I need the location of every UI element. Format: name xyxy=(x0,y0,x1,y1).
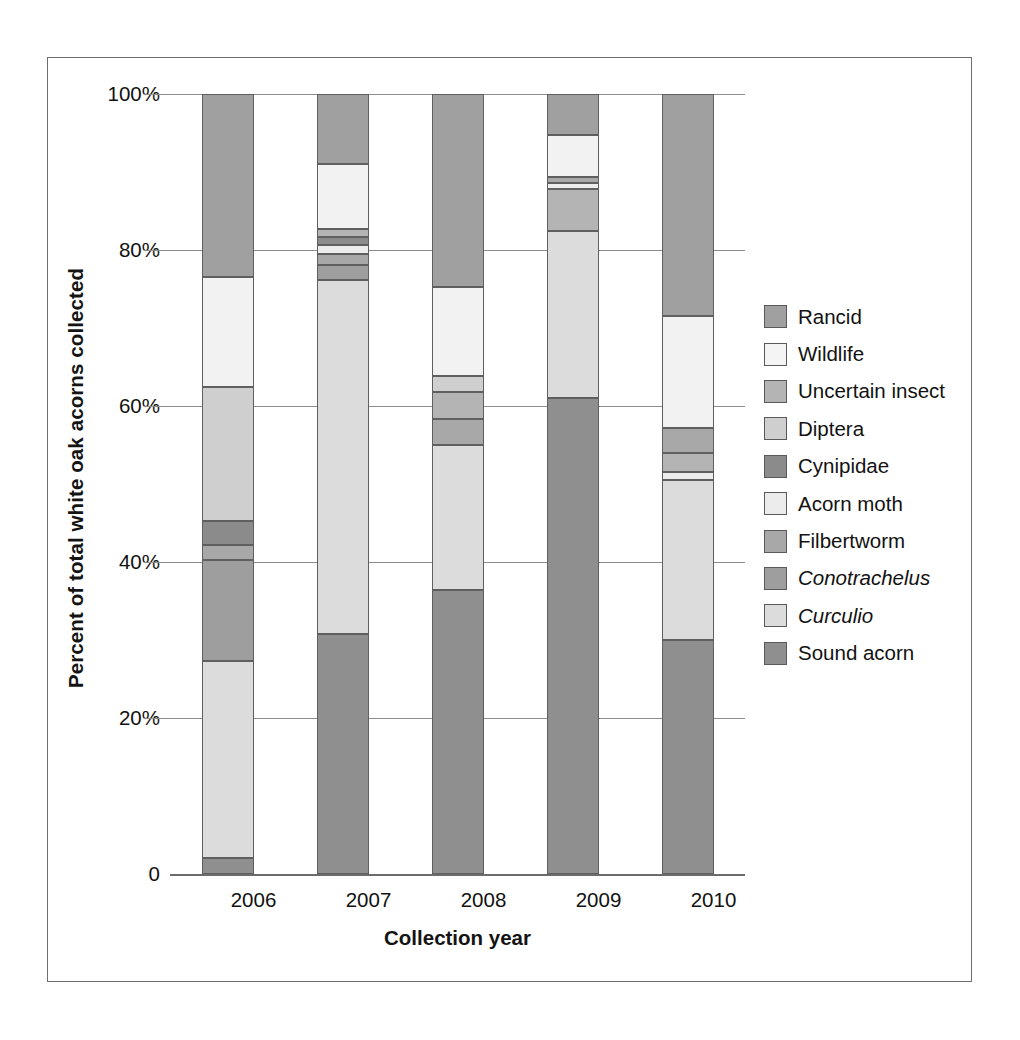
bar-segment-2009-filbertworm[interactable] xyxy=(547,177,599,183)
legend-item-acorn-moth[interactable]: Acorn moth xyxy=(764,485,964,522)
x-tick-label-2008: 2008 xyxy=(424,888,544,912)
legend-swatch-icon-rancid xyxy=(764,305,787,328)
bar-2008[interactable] xyxy=(432,94,484,874)
bar-segment-2009-sound-acorn[interactable] xyxy=(547,398,599,874)
legend-item-filbertworm[interactable]: Filbertworm xyxy=(764,522,964,559)
bar-segment-2006-sound-acorn[interactable] xyxy=(202,858,254,874)
y-tick-label-0: 0 xyxy=(149,862,160,886)
bar-segment-2007-curculio[interactable] xyxy=(317,280,369,633)
x-tick-label-2007: 2007 xyxy=(309,888,429,912)
legend-item-sound-acorn[interactable]: Sound acorn xyxy=(764,635,964,672)
figure-frame: Percent of total white oak acorns collec… xyxy=(47,57,972,982)
legend-item-conotrachelus[interactable]: Conotrachelus xyxy=(764,560,964,597)
legend-swatch-icon-conotrachelus xyxy=(764,567,787,590)
bar-2007[interactable] xyxy=(317,94,369,874)
bar-segment-2007-conotrachelus[interactable] xyxy=(317,265,369,281)
bar-segment-2007-filbertworm[interactable] xyxy=(317,254,369,265)
x-axis-title: Collection year xyxy=(170,926,745,950)
x-tick-label-2006: 2006 xyxy=(194,888,314,912)
legend-item-rancid[interactable]: Rancid xyxy=(764,298,964,335)
bar-segment-2006-diptera[interactable] xyxy=(202,387,254,522)
bar-segment-2007-wildlife[interactable] xyxy=(317,164,369,229)
bar-segment-2010-wildlife[interactable] xyxy=(662,316,714,428)
legend: RancidWildlifeUncertain insectDipteraCyn… xyxy=(764,298,964,672)
bar-segment-2006-conotrachelus[interactable] xyxy=(202,560,254,661)
bar-segment-2010-sound-acorn[interactable] xyxy=(662,640,714,874)
bar-segment-2006-rancid[interactable] xyxy=(202,94,254,277)
bar-segment-2010-uncertain-insect[interactable] xyxy=(662,453,714,473)
bar-segment-2008-wildlife[interactable] xyxy=(432,287,484,377)
bar-segment-2008-sound-acorn[interactable] xyxy=(432,590,484,874)
bar-segment-2008-diptera[interactable] xyxy=(432,376,484,392)
legend-swatch-icon-sound-acorn xyxy=(764,642,787,665)
bar-segment-2010-rancid[interactable] xyxy=(662,94,714,316)
legend-label: Rancid xyxy=(798,305,862,329)
bar-segment-2006-curculio[interactable] xyxy=(202,661,254,858)
legend-swatch-icon-curculio xyxy=(764,604,787,627)
bar-segment-2006-cynipidae[interactable] xyxy=(202,521,254,544)
legend-swatch-icon-filbertworm xyxy=(764,530,787,553)
bar-segment-2010-filbertworm[interactable] xyxy=(662,428,714,453)
bar-segment-2008-uncertain-insect[interactable] xyxy=(432,392,484,419)
bar-2006[interactable] xyxy=(202,94,254,874)
bar-segment-2007-rancid[interactable] xyxy=(317,94,369,164)
legend-label: Curculio xyxy=(798,604,873,628)
bar-segment-2007-sound-acorn[interactable] xyxy=(317,634,369,874)
y-tick-mark-40 xyxy=(144,562,170,563)
bar-segment-2007-acorn-moth[interactable] xyxy=(317,245,369,254)
x-tick-label-2010: 2010 xyxy=(654,888,774,912)
bar-segment-2008-filbertworm[interactable] xyxy=(432,419,484,445)
legend-swatch-icon-diptera xyxy=(764,417,787,440)
bar-segment-2008-rancid[interactable] xyxy=(432,94,484,287)
legend-label: Acorn moth xyxy=(798,492,903,516)
bar-segment-2007-cynipidae[interactable] xyxy=(317,237,369,245)
bar-segment-2006-filbertworm[interactable] xyxy=(202,545,254,560)
x-tick-label-2009: 2009 xyxy=(539,888,659,912)
bar-segment-2008-curculio[interactable] xyxy=(432,445,484,590)
bar-segment-2010-acorn-moth[interactable] xyxy=(662,472,714,480)
legend-label: Sound acorn xyxy=(798,641,914,665)
legend-label: Diptera xyxy=(798,417,864,441)
legend-label: Conotrachelus xyxy=(798,566,930,590)
y-axis-title: Percent of total white oak acorns collec… xyxy=(64,158,88,798)
bar-segment-2010-curculio[interactable] xyxy=(662,480,714,640)
legend-swatch-icon-cynipidae xyxy=(764,455,787,478)
x-axis-line xyxy=(170,874,745,876)
legend-swatch-icon-acorn-moth xyxy=(764,492,787,515)
y-tick-mark-60 xyxy=(144,406,170,407)
legend-label: Uncertain insect xyxy=(798,379,945,403)
bar-segment-2006-wildlife[interactable] xyxy=(202,277,254,386)
y-tick-mark-100 xyxy=(144,94,170,95)
bar-2010[interactable] xyxy=(662,94,714,874)
legend-swatch-icon-wildlife xyxy=(764,343,787,366)
y-tick-mark-20 xyxy=(144,718,170,719)
legend-item-diptera[interactable]: Diptera xyxy=(764,410,964,447)
y-tick-mark-80 xyxy=(144,250,170,251)
legend-item-wildlife[interactable]: Wildlife xyxy=(764,335,964,372)
legend-item-uncertain-insect[interactable]: Uncertain insect xyxy=(764,373,964,410)
plot-area: 020%40%60%80%100% 20062007200820092010 C… xyxy=(170,94,745,874)
bar-segment-2007-uncertain-insect[interactable] xyxy=(317,229,369,237)
bar-segment-2009-curculio[interactable] xyxy=(547,231,599,399)
legend-item-curculio[interactable]: Curculio xyxy=(764,597,964,634)
legend-label: Cynipidae xyxy=(798,454,889,478)
bar-2009[interactable] xyxy=(547,94,599,874)
bar-segment-2009-rancid[interactable] xyxy=(547,94,599,135)
legend-item-cynipidae[interactable]: Cynipidae xyxy=(764,448,964,485)
bar-segment-2009-uncertain-insect[interactable] xyxy=(547,189,599,230)
bar-segment-2009-acorn-moth[interactable] xyxy=(547,183,599,189)
legend-swatch-icon-uncertain-insect xyxy=(764,380,787,403)
bar-segment-2009-wildlife[interactable] xyxy=(547,135,599,177)
legend-label: Filbertworm xyxy=(798,529,905,553)
legend-label: Wildlife xyxy=(798,342,864,366)
